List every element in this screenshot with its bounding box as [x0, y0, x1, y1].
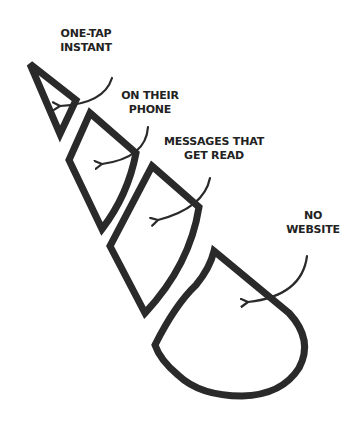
label-line: GET READ — [164, 149, 264, 163]
segment-triangle — [30, 64, 76, 134]
label-line: NO — [286, 209, 340, 223]
label-messages-that-get-read: MESSAGES THAT GET READ — [164, 135, 264, 163]
label-line: PHONE — [121, 103, 179, 117]
label-line: MESSAGES THAT — [164, 135, 264, 149]
diagram-canvas: ONE-TAP INSTANT ON THEIR PHONE MESSAGES … — [0, 0, 362, 430]
arrow-messages-that-get-read — [158, 178, 210, 220]
label-line: WEBSITE — [286, 223, 340, 237]
label-on-their-phone: ON THEIR PHONE — [121, 89, 179, 117]
arrow-no-website — [248, 256, 307, 302]
label-line: ONE-TAP — [60, 27, 112, 41]
label-no-website: NO WEBSITE — [286, 209, 340, 237]
label-line: INSTANT — [60, 41, 112, 55]
label-line: ON THEIR — [121, 89, 179, 103]
label-one-tap-instant: ONE-TAP INSTANT — [60, 27, 112, 55]
